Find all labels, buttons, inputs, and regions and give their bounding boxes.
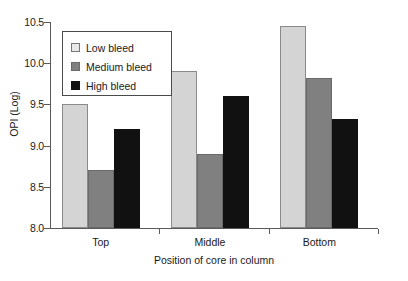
legend-item-label: Low bleed <box>86 42 134 54</box>
bar <box>197 154 223 228</box>
legend-swatch-icon <box>71 62 80 71</box>
legend-item-label: Medium bleed <box>86 61 152 73</box>
y-axis-tick-label-wrap: 10.5 <box>0 17 44 27</box>
y-axis-tick-label-wrap: 8.5 <box>0 182 44 192</box>
legend-item: Low bleed <box>71 38 171 57</box>
legend-swatch-icon <box>71 81 80 90</box>
y-axis-tick-label: 9.0 <box>4 141 44 151</box>
y-axis-tick <box>44 146 50 147</box>
y-axis-tick <box>44 187 50 188</box>
bar <box>223 96 249 228</box>
y-axis-tick-label: 10.5 <box>4 17 44 27</box>
x-axis-category-label: Middle <box>160 236 260 248</box>
bar <box>171 71 197 228</box>
legend-item: High bleed <box>71 76 171 95</box>
x-axis-line <box>50 228 378 229</box>
legend-item: Medium bleed <box>71 57 171 76</box>
x-axis-tick <box>269 229 270 234</box>
bar <box>332 119 358 228</box>
y-axis-tick-label-wrap: 9.5 <box>0 99 44 109</box>
x-axis-category-label: Top <box>51 236 151 248</box>
bar <box>62 104 88 228</box>
bar <box>280 26 306 228</box>
y-axis-tick <box>44 228 50 229</box>
legend: Low bleedMedium bleedHigh bleed <box>62 31 172 96</box>
y-axis-tick-label-wrap: 10.0 <box>0 58 44 68</box>
y-axis-tick-label-wrap: 9.0 <box>0 141 44 151</box>
y-axis-tick <box>44 22 50 23</box>
bar <box>306 78 332 228</box>
legend-swatch-icon <box>71 43 80 52</box>
y-axis-tick-label: 8.0 <box>4 223 44 233</box>
bar-chart-figure: OPI (Log) 8.08.59.09.510.010.5 TopMiddle… <box>0 0 408 281</box>
x-axis-tick <box>378 229 379 234</box>
y-axis-tick-label: 10.0 <box>4 58 44 68</box>
y-axis-tick-label: 9.5 <box>4 99 44 109</box>
y-axis-tick <box>44 104 50 105</box>
y-axis-line <box>50 22 51 229</box>
x-axis-category-label: Bottom <box>269 236 369 248</box>
x-axis-tick <box>159 229 160 234</box>
legend-item-label: High bleed <box>86 80 136 92</box>
y-axis-tick <box>44 63 50 64</box>
bar <box>88 170 114 228</box>
y-axis-tick-label: 8.5 <box>4 182 44 192</box>
bar <box>114 129 140 228</box>
y-axis-tick-label-wrap: 8.0 <box>0 223 44 233</box>
x-axis-title: Position of core in column <box>50 254 378 266</box>
